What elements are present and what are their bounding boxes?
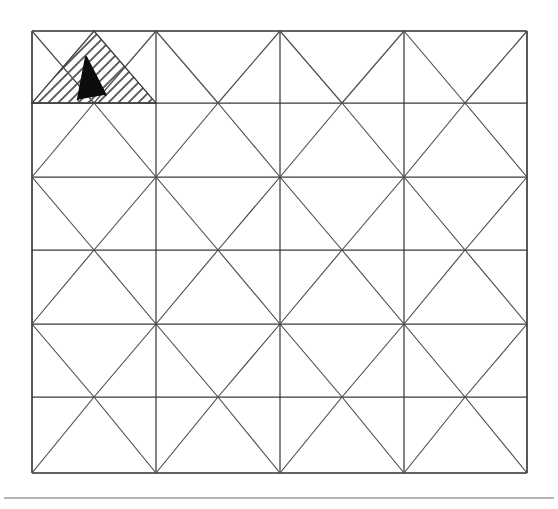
figure-root: A (0, 0, 558, 509)
lattice-figure: A (0, 0, 558, 509)
